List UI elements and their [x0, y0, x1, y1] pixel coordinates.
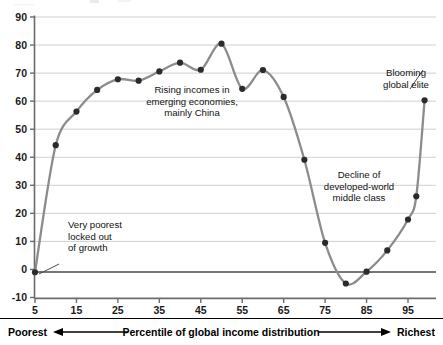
y-tick-label-0: 0	[21, 263, 27, 275]
data-point-0	[32, 269, 38, 275]
x-tick-label-45: 45	[195, 304, 207, 316]
data-point-5	[136, 78, 142, 84]
data-point-11	[260, 67, 266, 73]
data-point-20	[421, 97, 427, 103]
x-tick-label-15: 15	[71, 304, 83, 316]
x-tick-label-85: 85	[361, 304, 373, 316]
y-tick-label-10: 10	[15, 235, 27, 247]
data-point-10	[239, 86, 245, 92]
data-point-15	[343, 280, 349, 286]
data-point-17	[384, 247, 390, 253]
x-tick-label-35: 35	[153, 304, 165, 316]
y-tick-label-40: 40	[15, 151, 27, 163]
data-point-8	[198, 67, 204, 73]
y-tick-label-90: 90	[15, 11, 27, 23]
x-tick-label-65: 65	[278, 304, 290, 316]
y-tick-label-60: 60	[15, 95, 27, 107]
y-tick-label-20: 20	[15, 207, 27, 219]
footer-center-label: Percentile of global income distribution	[122, 326, 319, 338]
data-point-1	[53, 142, 59, 148]
data-point-14	[322, 240, 328, 246]
x-tick-label-75: 75	[319, 304, 331, 316]
footer-left-label: Poorest	[8, 326, 48, 338]
data-point-16	[363, 269, 369, 275]
chart-svg: -100102030405060708090 51525354555657585…	[0, 0, 443, 345]
data-point-13	[301, 157, 307, 163]
x-tick-label-5: 5	[32, 304, 38, 316]
x-tick-label-25: 25	[112, 304, 124, 316]
data-point-9	[218, 41, 224, 47]
data-point-7	[177, 60, 183, 66]
y-tick-label-50: 50	[15, 123, 27, 135]
y-tick-label-30: 30	[15, 179, 27, 191]
data-point-4	[115, 76, 121, 82]
y-tick-label-70: 70	[15, 67, 27, 79]
y-tick-label--10: -10	[12, 291, 27, 303]
data-point-12	[281, 94, 287, 100]
elephant-chart: -100102030405060708090 51525354555657585…	[0, 0, 443, 345]
x-tick-label-55: 55	[236, 304, 248, 316]
data-point-2	[73, 108, 79, 114]
annotation-blooming-global-elite: Bloomingglobal elite	[383, 67, 429, 90]
data-point-18	[405, 216, 411, 222]
data-point-19	[413, 193, 419, 199]
y-tick-label-80: 80	[15, 39, 27, 51]
data-point-3	[94, 87, 100, 93]
data-point-6	[156, 68, 162, 74]
footer-right-label: Richest	[397, 326, 435, 338]
x-tick-label-95: 95	[402, 304, 414, 316]
